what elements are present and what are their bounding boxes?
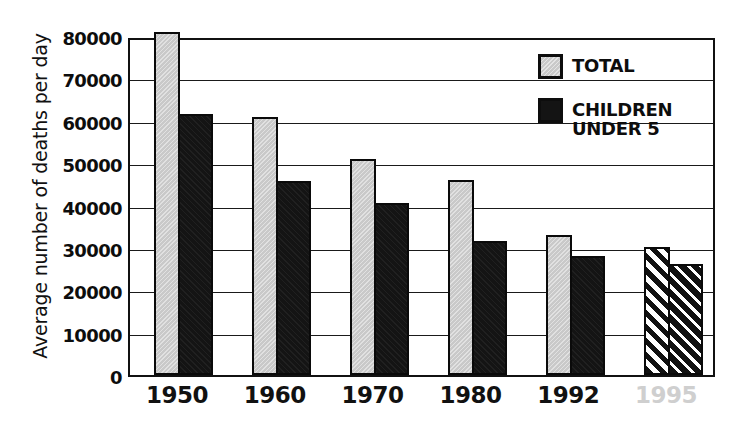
- x-axis-tick-labels: 195019601970198019921995: [128, 382, 715, 422]
- y-axis-tick-labels: 0100002000030000400005000060000700008000…: [16, 0, 122, 442]
- bar-1980-children-under-5: [472, 241, 507, 375]
- x-tick-label-1980: 1980: [439, 382, 501, 408]
- bar-1970-children-under-5: [374, 203, 409, 375]
- gridline-70000: [130, 80, 713, 81]
- y-tick-label: 30000: [22, 239, 122, 260]
- bar-1970-total: [350, 159, 376, 375]
- gridline-20000: [130, 292, 713, 293]
- legend-item-children-under-5: CHILDREN UNDER 5: [538, 98, 672, 138]
- bar-chart-figure: Average number of deaths per day 0100002…: [0, 0, 751, 442]
- x-tick-label-1995: 1995: [635, 382, 697, 408]
- bar-1960-total: [252, 117, 278, 375]
- gray-swatch: [538, 54, 563, 79]
- plot-area: [128, 38, 715, 377]
- y-tick-label: 0: [22, 367, 122, 388]
- black-swatch: [538, 98, 563, 123]
- legend-label: CHILDREN UNDER 5: [572, 100, 672, 138]
- y-tick-label: 10000: [22, 324, 122, 345]
- bar-1995-total: [644, 247, 670, 375]
- legend-label: TOTAL: [572, 56, 634, 75]
- y-tick-label: 40000: [22, 197, 122, 218]
- x-tick-label-1992: 1992: [537, 382, 599, 408]
- bar-1992-children-under-5: [570, 256, 605, 375]
- y-tick-label: 70000: [22, 70, 122, 91]
- gridline-40000: [130, 208, 713, 209]
- x-tick-label-1960: 1960: [244, 382, 306, 408]
- gridline-50000: [130, 165, 713, 166]
- legend-item-total: TOTAL: [538, 54, 634, 79]
- bar-1950-total: [154, 32, 180, 375]
- x-tick-label-1950: 1950: [146, 382, 208, 408]
- bar-1995-children-under-5: [668, 264, 703, 375]
- bar-1960-children-under-5: [276, 181, 311, 375]
- y-tick-label: 20000: [22, 282, 122, 303]
- y-tick-label: 80000: [22, 28, 122, 49]
- gridline-30000: [130, 250, 713, 251]
- bar-1950-children-under-5: [178, 114, 213, 375]
- bar-1980-total: [448, 180, 474, 375]
- bar-1992-total: [546, 235, 572, 375]
- y-tick-label: 50000: [22, 155, 122, 176]
- x-tick-label-1970: 1970: [342, 382, 404, 408]
- y-tick-label: 60000: [22, 112, 122, 133]
- gridline-10000: [130, 335, 713, 336]
